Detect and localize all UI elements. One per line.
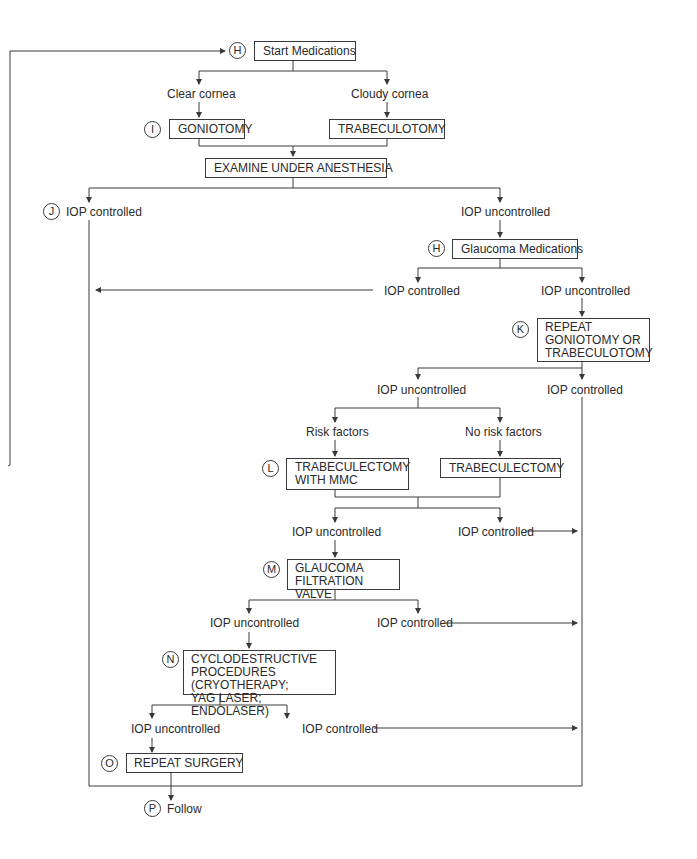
start-medications-label: Start Medications	[263, 44, 356, 58]
iop-uncontrolled-5-label: IOP uncontrolled	[210, 616, 299, 630]
iop-controlled-5-label: IOP controlled	[377, 616, 453, 630]
filtration-valve-line-2: FILTRATION VALVE	[295, 575, 392, 601]
step-marker-i: I	[144, 121, 161, 138]
trabeculectomy-label: TRABECULECTOMY	[449, 461, 564, 475]
trabeculectomy-box: TRABECULECTOMY	[440, 458, 561, 478]
iop-uncontrolled-3-label: IOP uncontrolled	[377, 383, 466, 397]
step-marker-h: H	[229, 42, 246, 59]
step-marker-p: P	[144, 800, 161, 817]
start-medications-box: Start Medications	[254, 41, 356, 61]
repeat-surgery-box: REPEAT SURGERY	[126, 753, 243, 773]
step-marker-n: N	[162, 651, 179, 668]
iop-controlled-1-label: IOP controlled	[66, 205, 142, 219]
glaucoma-medications-label: Glaucoma Medications	[461, 242, 583, 256]
cyclodestructive-line-2: PROCEDURES (CRYOTHERAPY;	[191, 666, 328, 692]
iop-controlled-3-label: IOP controlled	[547, 383, 623, 397]
cyclodestructive-line-3: YAG LASER; ENDOLASER)	[191, 692, 328, 718]
trabeculotomy-label: TRABECULOTOMY	[338, 122, 446, 136]
examine-under-anesthesia-box: EXAMINE UNDER ANESTHESIA	[205, 158, 387, 178]
iop-uncontrolled-2-label: IOP uncontrolled	[541, 284, 630, 298]
goniotomy-label: GONIOTOMY	[178, 122, 252, 136]
follow-label: Follow	[167, 802, 202, 816]
cloudy-cornea-label: Cloudy cornea	[351, 87, 428, 101]
glaucoma-medications-box: Glaucoma Medications	[452, 239, 578, 259]
iop-controlled-2-label: IOP controlled	[384, 284, 460, 298]
iop-uncontrolled-4-label: IOP uncontrolled	[292, 525, 381, 539]
step-marker-j: J	[43, 203, 60, 220]
trabeculotomy-box: TRABECULOTOMY	[329, 119, 445, 139]
cyclodestructive-box: CYCLODESTRUCTIVE PROCEDURES (CRYOTHERAPY…	[183, 650, 336, 695]
repeat-goniotomy-box: REPEAT GONIOTOMY OR TRABECULOTOMY	[537, 318, 650, 362]
iop-controlled-6-label: IOP controlled	[302, 722, 378, 736]
glaucoma-filtration-valve-box: GLAUCOMA FILTRATION VALVE	[287, 559, 400, 590]
iop-uncontrolled-1-label: IOP uncontrolled	[461, 205, 550, 219]
iop-uncontrolled-6-label: IOP uncontrolled	[131, 722, 220, 736]
no-risk-factors-label: No risk factors	[465, 425, 542, 439]
goniotomy-box: GONIOTOMY	[169, 119, 245, 139]
step-marker-m: M	[263, 561, 280, 578]
trabeculectomy-mmc-box: TRABECULECTOMY WITH MMC	[286, 458, 409, 490]
clear-cornea-label: Clear cornea	[167, 87, 236, 101]
iop-controlled-4-label: IOP controlled	[458, 525, 534, 539]
trabeculectomy-mmc-line-2: WITH MMC	[295, 474, 400, 487]
examine-under-anesthesia-label: EXAMINE UNDER ANESTHESIA	[214, 161, 393, 175]
step-marker-k: K	[512, 321, 529, 338]
step-marker-o: O	[101, 755, 118, 772]
step-marker-l: L	[262, 460, 279, 477]
risk-factors-label: Risk factors	[306, 425, 369, 439]
step-marker-h-2: H	[428, 240, 445, 257]
repeat-surgery-label: REPEAT SURGERY	[134, 756, 243, 770]
repeat-goniotomy-line-3: TRABECULOTOMY	[545, 347, 642, 360]
